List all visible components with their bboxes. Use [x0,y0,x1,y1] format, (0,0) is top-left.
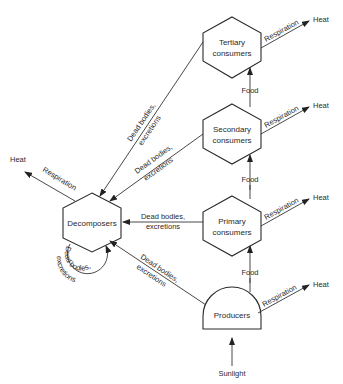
decomposers-label: Decomposers [67,219,116,228]
producers-label: Producers [214,311,250,320]
primary-label-line1: Primary [218,217,246,226]
excretions-label-3: excretions [146,222,180,231]
dead-bodies-self-loop: Dead bodies, excretions [55,244,108,284]
heat-label-3: Heat [313,193,330,202]
secondary-consumers-node: Secondary consumers [203,104,261,164]
heat-label-5: Heat [10,155,27,164]
decomposers-node: Decomposers [63,193,121,252]
dead-bodies-from-primary: Dead bodies, excretions [123,212,203,231]
respiration-label-5: Respiration [41,165,78,192]
tertiary-consumers-node: Tertiary consumers [203,17,261,78]
primary-label-line2: consumers [212,228,251,237]
sunlight-input: Sunlight [218,338,246,378]
food-arrows: Food Food Food [241,68,258,292]
respiration-secondary: Respiration Heat [261,101,330,134]
food-label-2: Food [241,175,258,184]
respiration-decomposers: Respiration Heat [10,155,78,201]
tertiary-label-line1: Tertiary [219,38,245,47]
producers-node: Producers [203,287,261,329]
respiration-producers: Respiration Heat [258,280,330,313]
respiration-label-4: Respiration [261,282,299,308]
heat-label-1: Heat [313,15,330,24]
food-label-1: Food [241,86,258,95]
respiration-primary: Respiration Heat [261,193,330,226]
respiration-label-2: Respiration [263,103,301,129]
respiration-label-1: Respiration [263,17,301,43]
secondary-label-line1: Secondary [213,125,251,134]
dead-bodies-from-secondary: Dead bodies, excretions [110,134,203,201]
tertiary-label-line2: consumers [212,49,251,58]
heat-label-2: Heat [313,101,330,110]
primary-consumers-node: Primary consumers [203,196,261,256]
heat-label-4: Heat [313,280,330,289]
respiration-tertiary: Respiration Heat [261,15,330,48]
ecosystem-energy-flow-diagram: Tertiary consumers Secondary consumers P… [0,0,343,384]
dead-bodies-label-3: Dead bodies, [141,212,185,221]
respiration-label-3: Respiration [263,195,301,221]
sunlight-label: Sunlight [218,369,246,378]
secondary-label-line2: consumers [212,136,251,145]
dead-bodies-from-producers: Dead bodies, excretions [110,241,206,305]
food-label-3: Food [241,268,258,277]
